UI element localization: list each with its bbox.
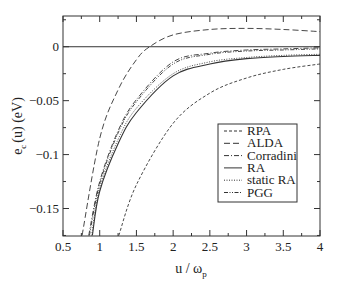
x-tick-label: 1 — [96, 239, 103, 254]
x-tick-label: 3.5 — [275, 239, 291, 254]
y-tick-label: −0.15 — [29, 201, 59, 216]
y-tick-label: −0.05 — [29, 93, 59, 108]
x-tick-label: 4 — [317, 239, 324, 254]
x-tick-label: 0.5 — [55, 239, 71, 254]
x-tick-label: 3 — [243, 239, 250, 254]
legend-label: PGG — [247, 185, 273, 200]
y-tick-label: 0 — [53, 39, 60, 54]
legend: RPAALDACorradiniRAstatic RAPGG — [218, 123, 297, 202]
x-axis-label: u / ωp — [175, 261, 207, 279]
y-axis-label: ec(u) (eV) — [10, 97, 28, 155]
y-tick-label: −0.1 — [35, 147, 59, 162]
x-tick-label: 2 — [170, 239, 177, 254]
chart: 0.511.522.533.54 0−0.05−0.1−0.15 u / ωp … — [0, 0, 338, 287]
x-tick-label: 2.5 — [202, 239, 218, 254]
x-tick-label: 1.5 — [128, 239, 144, 254]
